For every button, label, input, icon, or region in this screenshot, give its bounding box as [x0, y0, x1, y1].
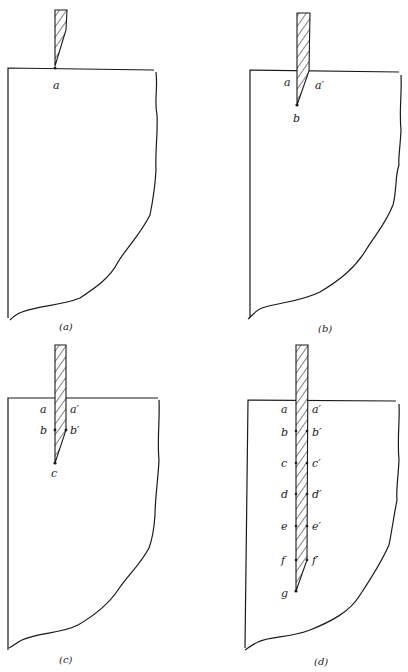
label-b-prime: b′ — [312, 426, 322, 439]
label-c-prime: c′ — [312, 457, 321, 470]
point-b — [54, 429, 57, 432]
penetration-diagram: a (a) a a′ b (b) a b a′ b′ c (c) — [0, 0, 408, 672]
label-e: e — [281, 520, 288, 533]
label-a: a — [53, 79, 60, 92]
label-b: b — [281, 426, 288, 439]
tip-point-c — [53, 461, 56, 464]
caption-a: (a) — [59, 321, 73, 332]
panel-d: a b c d e f a′ b′ c′ d′ e′ f′ g (d) — [245, 345, 399, 667]
material-block-outline — [245, 400, 399, 650]
panel-a: a (a) — [8, 10, 157, 332]
material-block-outline — [8, 68, 157, 320]
label-f: f — [280, 554, 287, 567]
label-a: a — [281, 403, 288, 416]
label-d-prime: d′ — [312, 488, 322, 501]
caption-c: (c) — [59, 654, 73, 665]
label-a: a — [40, 403, 47, 416]
contact-point-a — [54, 67, 57, 70]
label-e-prime: e′ — [312, 520, 322, 533]
label-d: d — [281, 488, 288, 501]
label-a: a — [284, 76, 291, 89]
label-f-prime: f′ — [311, 554, 319, 567]
caption-d: (d) — [314, 656, 328, 667]
label-a-prime: a′ — [315, 79, 325, 92]
tool-wedge — [297, 13, 310, 105]
label-c: c — [51, 467, 57, 480]
label-b: b — [40, 424, 47, 437]
point-b-prime — [65, 429, 68, 432]
tool-wedge — [55, 345, 66, 463]
panel-c: a b a′ b′ c (c) — [8, 345, 159, 665]
tool-wedge — [55, 10, 67, 66]
label-a-prime: a′ — [312, 403, 322, 416]
material-block-outline — [248, 70, 401, 319]
tip-point-g — [294, 589, 297, 592]
label-a-prime: a′ — [70, 403, 80, 416]
panel-b: a a′ b (b) — [248, 13, 401, 334]
caption-b: (b) — [318, 323, 332, 334]
label-g: g — [281, 587, 288, 600]
label-b-prime: b′ — [70, 424, 80, 437]
material-block-outline — [8, 398, 159, 650]
label-b: b — [293, 112, 300, 125]
tip-point-b — [295, 103, 298, 106]
label-c: c — [281, 457, 287, 470]
tool-wedge — [296, 345, 308, 591]
